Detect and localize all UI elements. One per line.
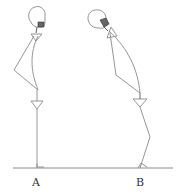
spine-curve — [109, 31, 140, 93]
skull-icon — [29, 7, 45, 33]
foot-mark — [37, 164, 44, 167]
figure-a-label: A — [31, 176, 41, 189]
figure-b-label: B — [136, 176, 144, 189]
figure-b — [88, 10, 150, 168]
arm-line — [110, 33, 140, 93]
foot-mark — [138, 163, 147, 168]
hip-triangle — [133, 99, 147, 107]
skull-icon — [88, 10, 109, 31]
posture-diagram: A B — [0, 0, 183, 196]
shoulder-triangle — [107, 27, 117, 38]
hip-triangle — [31, 101, 43, 109]
leg-line — [140, 107, 150, 168]
figure-a — [14, 7, 45, 168]
spine-curve — [32, 36, 38, 90]
